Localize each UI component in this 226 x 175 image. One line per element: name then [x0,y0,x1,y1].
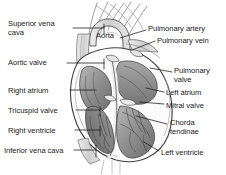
label-right-ventricle: Right ventricle [8,126,55,135]
label-inferior-vena-cava: Inferior vena cava [4,146,63,155]
label-tricuspid-valve: Tricuspid valve [8,106,58,115]
label-left-ventricle: Left ventricle [161,148,203,157]
apex-vessels [101,160,120,174]
label-aortic-valve: Aortic valve [8,58,47,67]
heart-diagram: Superior vena cava Aortic valve Right at… [0,0,226,175]
label-pulmonary-artery: Pulmonary artery [148,24,205,33]
label-aorta: Aorta [96,31,114,40]
label-right-atrium: Right atrium [8,86,48,95]
label-superior-vena-cava: Superior vena cava [8,19,55,37]
label-pulmonary-valve: Pulmonary valve [174,66,210,84]
label-chorda-tendinae: Chorda tendinae [170,118,199,136]
label-pulmonary-vein: Pulmonary vein [157,36,209,45]
label-mitral-valve: Mitral valve [166,101,204,110]
label-left-atrium: Left atrium [166,88,201,97]
